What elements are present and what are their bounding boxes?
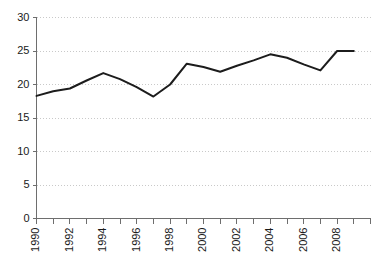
x-axis — [37, 219, 371, 224]
y-tick-label-10: 10 — [17, 145, 29, 157]
y-tick-labels: 051015202530 — [17, 11, 29, 224]
x-tick-label-1996: 1996 — [130, 228, 142, 252]
data-line-1 — [37, 51, 354, 97]
chart-page: 051015202530 199019921994199619982000200… — [0, 0, 387, 266]
y-axis — [33, 18, 37, 219]
x-tick-label-1998: 1998 — [163, 228, 175, 252]
y-tick-label-5: 5 — [23, 178, 29, 190]
y-tick-label-0: 0 — [23, 212, 29, 224]
grid-lines — [37, 18, 371, 219]
x-tick-label-2008: 2008 — [330, 228, 342, 252]
y-tick-label-20: 20 — [17, 78, 29, 90]
x-tick-label-2002: 2002 — [230, 228, 242, 252]
x-tick-label-1990: 1990 — [29, 228, 41, 252]
x-tick-label-1992: 1992 — [63, 228, 75, 252]
x-tick-label-2000: 2000 — [196, 228, 208, 252]
x-tick-label-1994: 1994 — [96, 228, 108, 252]
data-series-group — [37, 51, 354, 97]
x-tick-label-2006: 2006 — [297, 228, 309, 252]
y-tick-label-15: 15 — [17, 111, 29, 123]
x-tick-labels: 1990199219941996199820002002200420062008 — [29, 228, 342, 252]
y-tick-label-25: 25 — [17, 44, 29, 56]
x-tick-label-2004: 2004 — [263, 228, 275, 252]
y-tick-label-30: 30 — [17, 11, 29, 23]
line-chart: 051015202530 199019921994199619982000200… — [0, 0, 387, 266]
